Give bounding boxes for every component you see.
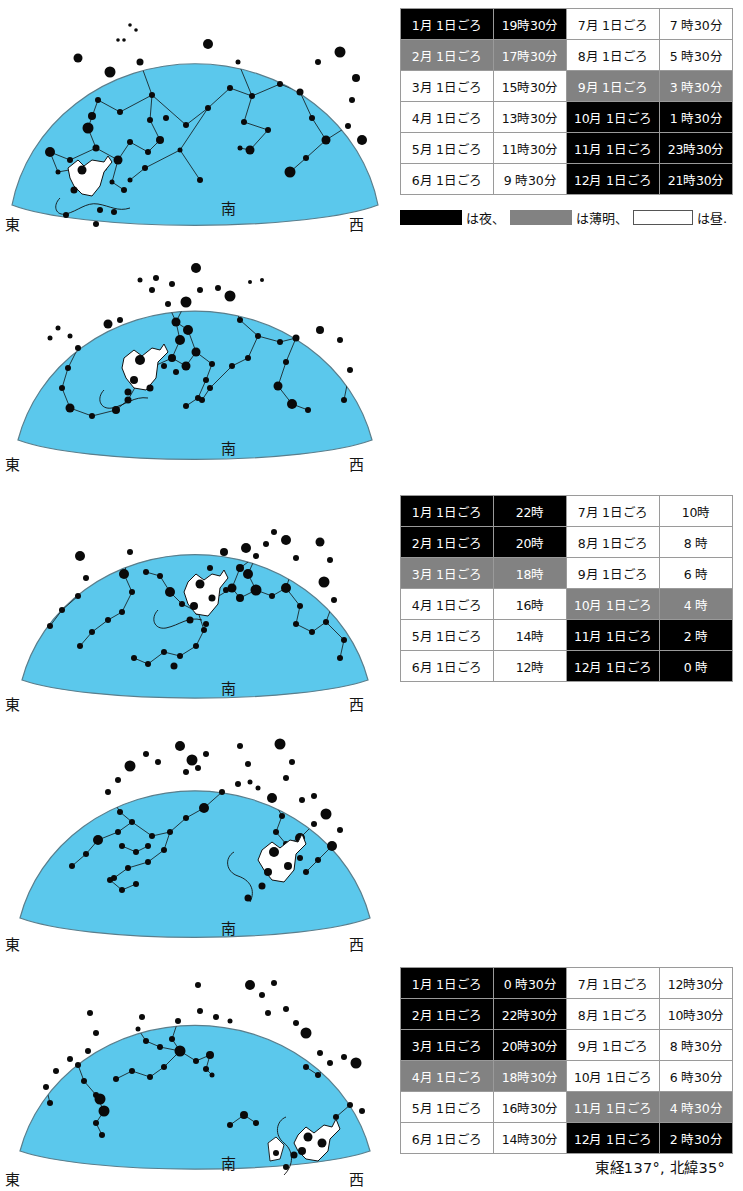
direction-south: 南 <box>221 197 236 218</box>
panel-4: 東 南 西 1月 1日ごろ3 時7月 1日ごろ15時2月 1日ごろ1 時8月 1… <box>0 720 743 958</box>
star-chart-page: 東 南 西 1月 1日ごろ19時30分7月 1日ごろ7 時30分2月 1日ごろ1… <box>0 0 743 1191</box>
direction-east: 東 <box>5 693 20 714</box>
cell-date-right: 12月 1日ごろ <box>567 164 660 195</box>
cell-time-left: 11時30分 <box>494 133 567 164</box>
legend-twilight-label: は薄明、 <box>576 208 628 227</box>
panel-2: 東 南 西 1月 1日ごろ22時7月 1日ごろ10時2月 1日ごろ20時8月 1… <box>0 240 743 478</box>
cell-time-left: 17時30分 <box>494 40 567 71</box>
direction-east: 東 <box>5 453 20 474</box>
panel-3: 東 南 西 1月 1日ごろ0 時30分7月 1日ごろ12時30分2月 1日ごろ2… <box>0 480 743 718</box>
table-row: 2月 1日ごろ17時30分8月 1日ごろ5 時30分 <box>401 40 733 71</box>
cell-date-right: 10月 1日ごろ <box>567 102 660 133</box>
direction-south: 南 <box>221 917 236 938</box>
legend-swatch-night <box>400 210 462 225</box>
table-row: 4月 1日ごろ13時30分10月 1日ごろ1 時30分 <box>401 102 733 133</box>
cell-time-right: 7 時30分 <box>660 9 733 40</box>
table-row: 1月 1日ごろ19時30分7月 1日ごろ7 時30分 <box>401 9 733 40</box>
direction-east: 東 <box>5 1168 20 1189</box>
panel-1: 東 南 西 1月 1日ごろ19時30分7月 1日ごろ7 時30分2月 1日ごろ1… <box>0 0 743 238</box>
cell-date-right: 11月 1日ごろ <box>567 133 660 164</box>
cell-time-left: 13時30分 <box>494 102 567 133</box>
direction-west: 西 <box>349 213 364 234</box>
legend-day-label: は昼. <box>697 208 727 227</box>
cell-time-right: 1 時30分 <box>660 102 733 133</box>
cell-date-right: 9月 1日ごろ <box>567 71 660 102</box>
cell-date-left: 2月 1日ごろ <box>401 40 494 71</box>
sky-dome-2: 東 南 西 <box>0 240 392 478</box>
cell-time-left: 19時30分 <box>494 9 567 40</box>
sky-dome-3: 東 南 西 <box>0 480 392 718</box>
legend-night-label: は夜、 <box>466 208 505 227</box>
sky-dome-4: 東 南 西 <box>0 720 392 958</box>
dome-shape <box>12 64 378 226</box>
cell-date-left: 5月 1日ごろ <box>401 133 494 164</box>
cell-time-right: 3 時30分 <box>660 71 733 102</box>
direction-west: 西 <box>349 693 364 714</box>
cell-date-left: 1月 1日ごろ <box>401 9 494 40</box>
direction-west: 西 <box>349 1168 364 1189</box>
cell-time-left: 15時30分 <box>494 71 567 102</box>
sky-dome-5: 東 南 西 <box>0 955 392 1191</box>
cell-time-right: 21時30分 <box>660 164 733 195</box>
cell-time-left: 9 時30分 <box>494 164 567 195</box>
time-table-1: 1月 1日ごろ19時30分7月 1日ごろ7 時30分2月 1日ごろ17時30分8… <box>400 8 733 195</box>
sky-dome-1: 東 南 西 <box>0 0 392 238</box>
legend-swatch-day <box>633 210 693 225</box>
direction-west: 西 <box>349 453 364 474</box>
direction-south: 南 <box>221 677 236 698</box>
table-row: 6月 1日ごろ9 時30分12月 1日ごろ21時30分 <box>401 164 733 195</box>
direction-west: 西 <box>349 933 364 954</box>
direction-south: 南 <box>221 1152 236 1173</box>
cell-date-left: 4月 1日ごろ <box>401 102 494 133</box>
cell-time-right: 5 時30分 <box>660 40 733 71</box>
table-row: 3月 1日ごろ15時30分9月 1日ごろ3 時30分 <box>401 71 733 102</box>
direction-east: 東 <box>5 933 20 954</box>
legend-swatch-twilight <box>510 210 572 225</box>
table-row: 5月 1日ごろ11時30分11月 1日ごろ23時30分 <box>401 133 733 164</box>
cell-date-right: 7月 1日ごろ <box>567 9 660 40</box>
cell-date-right: 8月 1日ごろ <box>567 40 660 71</box>
direction-east: 東 <box>5 213 20 234</box>
cell-date-left: 6月 1日ごろ <box>401 164 494 195</box>
legend: は夜、 は薄明、 は昼. <box>400 208 732 227</box>
cell-time-right: 23時30分 <box>660 133 733 164</box>
coordinates-label: 東経137°, 北緯35° <box>595 1156 725 1177</box>
cell-date-left: 3月 1日ごろ <box>401 71 494 102</box>
direction-south: 南 <box>221 437 236 458</box>
